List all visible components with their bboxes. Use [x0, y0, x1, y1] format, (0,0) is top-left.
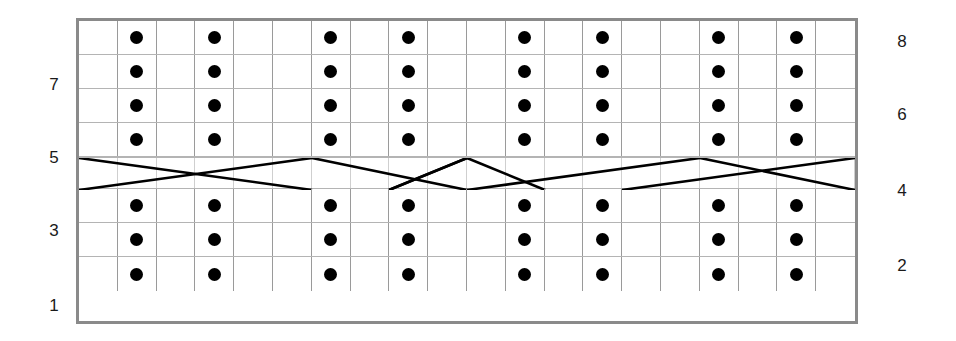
chart-grid-border: [76, 18, 858, 324]
chart-cell: [312, 189, 351, 222]
chart-cell: [195, 21, 234, 54]
chart-cell: [545, 89, 584, 122]
chart-cell: [273, 21, 312, 54]
chart-cell: [118, 55, 157, 88]
chart-cell: [739, 123, 778, 156]
chart-cell: [79, 158, 118, 188]
chart-cell: [506, 223, 545, 256]
chart-cell: [312, 21, 351, 54]
purl-stitch-dot-icon: [402, 133, 415, 146]
purl-stitch-dot-icon: [596, 268, 609, 281]
purl-stitch-dot-icon: [596, 133, 609, 146]
chart-cell: [622, 158, 661, 188]
purl-stitch-dot-icon: [130, 31, 143, 44]
chart-cell: [777, 158, 816, 188]
chart-cell: [234, 55, 273, 88]
chart-cell: [195, 158, 234, 188]
chart-cell: [467, 21, 506, 54]
row-label-right-8: 8: [890, 33, 914, 50]
purl-stitch-dot-icon: [712, 65, 725, 78]
chart-cell: [506, 123, 545, 156]
row-label-left-3: 3: [42, 222, 66, 239]
chart-cell: [467, 89, 506, 122]
chart-cell: [389, 89, 428, 122]
chart-row: [79, 223, 855, 257]
chart-cell: [506, 21, 545, 54]
chart-cell: [234, 223, 273, 256]
chart-cell: [157, 55, 196, 88]
chart-cell: [273, 223, 312, 256]
chart-cell: [118, 257, 157, 291]
chart-cell: [428, 21, 467, 54]
chart-cell: [700, 257, 739, 291]
chart-cell: [622, 123, 661, 156]
chart-cell: [467, 223, 506, 256]
chart-cell: [661, 21, 700, 54]
chart-cell: [816, 55, 855, 88]
chart-cell: [389, 55, 428, 88]
chart-cell: [428, 89, 467, 122]
chart-cell: [273, 55, 312, 88]
chart-cell: [622, 21, 661, 54]
chart-cell: [622, 55, 661, 88]
chart-cell: [195, 189, 234, 222]
chart-cell: [622, 257, 661, 291]
chart-cell: [195, 223, 234, 256]
chart-cell: [661, 55, 700, 88]
chart-cell: [118, 123, 157, 156]
purl-stitch-dot-icon: [324, 268, 337, 281]
purl-stitch-dot-icon: [790, 99, 803, 112]
chart-cell: [739, 189, 778, 222]
purl-stitch-dot-icon: [402, 268, 415, 281]
chart-cell: [428, 257, 467, 291]
chart-cell: [79, 257, 118, 291]
chart-cell: [312, 257, 351, 291]
purl-stitch-dot-icon: [130, 268, 143, 281]
chart-cell: [157, 189, 196, 222]
chart-cell: [583, 21, 622, 54]
chart-cell: [622, 223, 661, 256]
purl-stitch-dot-icon: [790, 133, 803, 146]
chart-cell: [195, 257, 234, 291]
chart-cell: [157, 158, 196, 188]
chart-cell: [428, 189, 467, 222]
chart-row: [79, 189, 855, 223]
chart-cell: [583, 123, 622, 156]
purl-stitch-dot-icon: [130, 65, 143, 78]
chart-cell: [583, 189, 622, 222]
chart-cell: [157, 123, 196, 156]
chart-cell: [467, 158, 506, 188]
chart-cell: [583, 223, 622, 256]
chart-cell: [816, 158, 855, 188]
purl-stitch-dot-icon: [402, 233, 415, 246]
chart-cell: [700, 123, 739, 156]
chart-cell: [234, 189, 273, 222]
purl-stitch-dot-icon: [402, 31, 415, 44]
chart-row: [79, 55, 855, 89]
purl-stitch-dot-icon: [130, 133, 143, 146]
chart-cell: [739, 89, 778, 122]
chart-cell: [777, 89, 816, 122]
chart-cell: [816, 123, 855, 156]
chart-cell: [312, 89, 351, 122]
chart-cell: [739, 257, 778, 291]
chart-cell: [118, 21, 157, 54]
purl-stitch-dot-icon: [790, 31, 803, 44]
purl-stitch-dot-icon: [518, 99, 531, 112]
chart-cell: [777, 21, 816, 54]
chart-cell: [545, 55, 584, 88]
chart-cell: [739, 158, 778, 188]
purl-stitch-dot-icon: [324, 133, 337, 146]
chart-cell: [234, 123, 273, 156]
chart-cell: [545, 158, 584, 188]
purl-stitch-dot-icon: [402, 199, 415, 212]
row-label-left-5: 5: [42, 149, 66, 166]
chart-cell: [661, 223, 700, 256]
chart-grid: [79, 21, 855, 321]
chart-cell: [234, 21, 273, 54]
purl-stitch-dot-icon: [596, 199, 609, 212]
purl-stitch-dot-icon: [324, 199, 337, 212]
chart-cell: [700, 21, 739, 54]
chart-cell: [428, 55, 467, 88]
chart-cell: [506, 89, 545, 122]
